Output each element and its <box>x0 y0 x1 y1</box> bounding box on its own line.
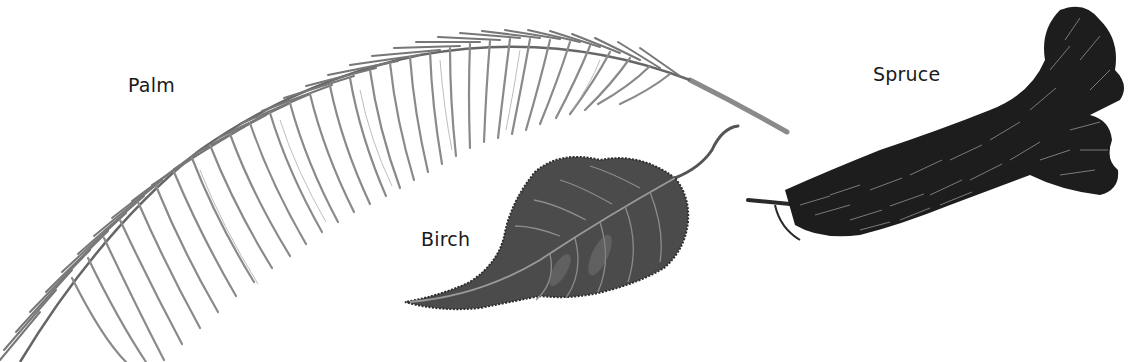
label-palm: Palm <box>128 74 175 96</box>
label-spruce: Spruce <box>873 63 940 85</box>
leaves-illustration <box>0 0 1146 362</box>
illustration-canvas: Palm Birch Spruce <box>0 0 1146 362</box>
spruce-branch <box>748 7 1124 240</box>
label-birch: Birch <box>421 228 470 250</box>
